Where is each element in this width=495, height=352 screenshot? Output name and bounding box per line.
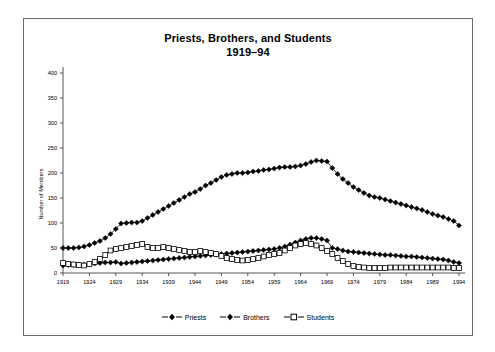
x-tick-label: 1969: [321, 279, 333, 285]
filled-diamond-icon: [446, 216, 451, 221]
filled-diamond-icon: [203, 183, 208, 188]
open-square-icon: [76, 263, 81, 268]
filled-diamond-icon: [367, 251, 372, 256]
filled-diamond-icon: [314, 235, 319, 240]
open-square-icon: [187, 250, 192, 255]
filled-diamond-icon: [266, 167, 271, 172]
filled-diamond-icon: [309, 159, 314, 164]
filled-diamond-icon: [182, 255, 187, 260]
filled-diamond-icon: [319, 236, 324, 241]
filled-diamond-icon: [177, 255, 182, 260]
filled-diamond-icon: [150, 212, 155, 217]
open-square-icon: [388, 265, 393, 270]
open-square-icon: [430, 265, 435, 270]
open-square-icon: [119, 246, 124, 251]
filled-diamond-icon: [97, 238, 102, 243]
open-square-icon: [135, 243, 140, 248]
filled-diamond-icon: [229, 171, 234, 176]
legend-item-brothers[interactable]: Brothers: [220, 313, 269, 321]
filled-diamond-icon: [60, 245, 65, 250]
open-square-icon: [251, 257, 256, 262]
open-square-icon: [61, 261, 66, 266]
filled-diamond-icon: [256, 168, 261, 173]
data-series-group: [60, 158, 461, 271]
x-tick-label: 1974: [347, 279, 359, 285]
filled-diamond-icon: [382, 252, 387, 257]
open-square-icon: [435, 265, 440, 270]
filled-diamond-icon: [129, 220, 134, 225]
filled-diamond-icon: [108, 260, 113, 265]
open-square-icon: [261, 254, 266, 259]
open-square-icon: [277, 251, 282, 256]
filled-diamond-icon: [87, 242, 92, 247]
filled-diamond-icon: [171, 200, 176, 205]
filled-diamond-icon: [335, 246, 340, 251]
open-square-icon: [457, 266, 462, 271]
x-tick-label: 1954: [242, 279, 254, 285]
filled-diamond-icon: [293, 164, 298, 169]
data-series-priests: [60, 158, 461, 251]
filled-diamond-icon: [419, 255, 424, 260]
figure-frame: Priests, Brothers, and Students 1919–94 …: [23, 18, 473, 336]
filled-diamond-icon: [367, 193, 372, 198]
open-square-icon: [425, 265, 430, 270]
open-square-icon: [214, 252, 219, 257]
filled-diamond-icon: [198, 253, 203, 258]
open-square-icon: [182, 249, 187, 254]
filled-diamond-icon: [409, 254, 414, 259]
open-square-icon: [451, 266, 456, 271]
open-square-icon: [377, 266, 382, 271]
legend-label: Students: [307, 314, 335, 321]
open-square-icon: [446, 265, 451, 270]
open-square-icon: [66, 262, 71, 267]
filled-diamond-icon: [224, 172, 229, 177]
filled-diamond-icon: [124, 220, 129, 225]
open-square-icon: [108, 248, 113, 253]
filled-diamond-icon: [382, 197, 387, 202]
filled-diamond-icon: [430, 256, 435, 261]
open-square-icon: [113, 247, 118, 252]
legend-label: Priests: [185, 314, 206, 321]
open-square-icon: [208, 251, 213, 256]
x-tick-label: 1989: [426, 279, 438, 285]
filled-diamond-icon: [155, 209, 160, 214]
open-square-icon: [166, 246, 171, 251]
filled-diamond-icon: [140, 218, 145, 223]
open-square-icon: [282, 248, 287, 253]
open-square-icon: [71, 262, 76, 267]
filled-diamond-icon: [435, 256, 440, 261]
filled-diamond-icon: [245, 249, 250, 254]
x-tick-label: 1939: [162, 279, 174, 285]
filled-diamond-icon: [166, 203, 171, 208]
legend-item-students[interactable]: Students: [284, 313, 335, 321]
open-square-icon: [98, 257, 103, 262]
filled-diamond-icon: [145, 215, 150, 220]
filled-diamond-icon: [446, 258, 451, 263]
open-square-icon: [87, 262, 92, 267]
filled-diamond-icon: [414, 206, 419, 211]
y-tick-label: 350: [48, 95, 57, 101]
open-square-icon: [124, 245, 129, 250]
open-square-icon: [82, 263, 87, 268]
filled-diamond-icon: [129, 260, 134, 265]
filled-diamond-icon: [377, 195, 382, 200]
x-tick-label: 1994: [453, 279, 465, 285]
x-tick-label: 1959: [268, 279, 280, 285]
legend-item-priests[interactable]: Priests: [162, 313, 206, 321]
x-axis: 1919192419291934193919441949195419591964…: [57, 273, 465, 285]
filled-diamond-icon: [356, 187, 361, 192]
chart-legend: PriestsBrothersStudents: [24, 313, 472, 321]
open-square-icon: [325, 249, 330, 254]
filled-diamond-icon: [256, 248, 261, 253]
open-square-icon: [383, 266, 388, 271]
x-tick-label: 1984: [400, 279, 412, 285]
data-series-brothers: [60, 235, 461, 268]
y-axis: 050100150200250300350400: [48, 67, 63, 276]
filled-diamond-icon: [177, 197, 182, 202]
open-square-icon: [177, 248, 182, 253]
open-square-icon: [298, 242, 303, 247]
filled-diamond-icon: [388, 198, 393, 203]
open-square-icon: [103, 253, 108, 258]
filled-diamond-icon: [261, 247, 266, 252]
filled-diamond-icon: [240, 249, 245, 254]
